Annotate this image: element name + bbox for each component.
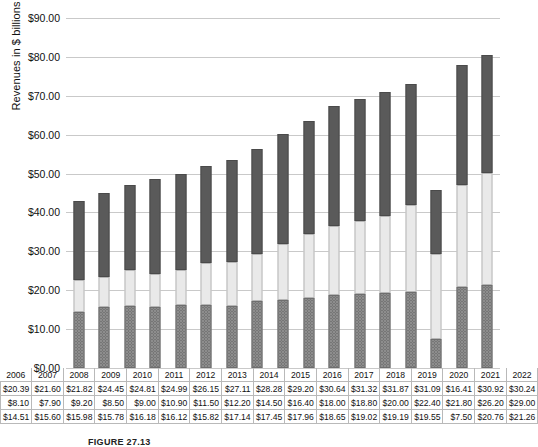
bar-segment-gate-receipts[interactable] [99,307,110,368]
bar-segment-sponsorship[interactable] [175,174,186,270]
y-axis-tick-label: $40.00 [28,206,60,218]
table-cell-value: $11.50 [190,396,222,410]
x-axis-tick-label: 2017 [348,368,380,382]
bar-segment-media[interactable] [456,185,467,287]
x-axis-tick-label: 2011 [158,368,190,382]
table-cell-value: $31.32 [348,382,380,396]
bar-column [398,18,424,368]
bar-segment-gate-receipts[interactable] [303,298,314,368]
table-cell-value: $30.24 [506,382,538,396]
bar-segment-sponsorship[interactable] [354,99,365,221]
table-cell-value: $12.20 [221,396,253,410]
stacked-bar[interactable] [482,55,493,368]
table-cell-value: $15.98 [63,410,95,424]
bar-segment-gate-receipts[interactable] [329,295,340,368]
stacked-bar[interactable] [329,106,340,368]
bar-segment-gate-receipts[interactable] [175,305,186,368]
table-cell-value: $15.82 [190,410,222,424]
stacked-bar[interactable] [226,160,237,368]
table-cell-value: $31.87 [380,382,412,396]
bar-segment-gate-receipts[interactable] [380,293,391,368]
bar-segment-sponsorship[interactable] [329,106,340,225]
bar-segment-sponsorship[interactable] [303,121,314,235]
bar-segment-sponsorship[interactable] [73,201,84,280]
bar-segment-media[interactable] [226,262,237,307]
figure-caption: FIGURE 27.13 [88,437,151,447]
stacked-bar[interactable] [405,84,416,368]
stacked-bar[interactable] [73,201,84,368]
x-axis-tick-label: 2010 [127,368,159,382]
bar-segment-media[interactable] [482,173,493,286]
stacked-bar[interactable] [201,166,212,368]
bar-segment-gate-receipts[interactable] [456,287,467,368]
bar-segment-media[interactable] [405,205,416,292]
table-cell-value: $16.41 [443,382,475,396]
bar-segment-sponsorship[interactable] [201,166,212,263]
bar-segment-media[interactable] [278,244,289,300]
bar-segment-sponsorship[interactable] [226,160,237,262]
y-axis-tick-label: $50.00 [28,168,60,180]
bar-segment-sponsorship[interactable] [482,55,493,173]
stacked-bar[interactable] [278,134,289,368]
bar-column [66,18,92,368]
stacked-bar[interactable] [431,190,442,368]
table-cell-value: $7.90 [32,396,64,410]
bar-segment-sponsorship[interactable] [431,190,442,254]
bar-segment-media[interactable] [124,270,135,306]
table-cell-value: $24.45 [95,382,127,396]
stacked-bar[interactable] [175,174,186,368]
bar-segment-gate-receipts[interactable] [252,301,263,368]
bar-segment-sponsorship[interactable] [456,65,467,185]
table-cell-value: $26.20 [475,396,507,410]
bar-segment-gate-receipts[interactable] [226,306,237,368]
table-cell-value: $20.00 [380,396,412,410]
bar-segment-sponsorship[interactable] [124,185,135,270]
stacked-bar[interactable] [456,65,467,368]
stacked-bar[interactable] [124,185,135,368]
bar-segment-media[interactable] [201,263,212,305]
table-cell-value: $20.39 [1,382,32,396]
stacked-bar[interactable] [380,92,391,368]
stacked-bar[interactable] [354,99,365,368]
bar-segment-gate-receipts[interactable] [431,339,442,368]
bar-segment-sponsorship[interactable] [405,84,416,205]
bar-segment-sponsorship[interactable] [278,134,289,244]
bar-segment-media[interactable] [175,270,186,305]
bar-segment-sponsorship[interactable] [380,92,391,216]
bar-segment-gate-receipts[interactable] [405,292,416,368]
x-axis-tick-label: 2021 [475,368,507,382]
stacked-bar[interactable] [99,193,110,368]
stacked-bar[interactable] [252,148,263,368]
table-cell-value: $29.20 [285,382,317,396]
bar-segment-media[interactable] [252,254,263,301]
bar-segment-gate-receipts[interactable] [482,285,493,368]
x-axis-tick-label: 2006 [1,368,32,382]
bar-segment-media[interactable] [73,280,84,311]
bar-segment-media[interactable] [354,221,365,294]
bar-column [347,18,373,368]
bar-segment-media[interactable] [329,226,340,296]
table-cell-value: $17.45 [253,410,285,424]
table-cell-value: $19.55 [411,410,443,424]
bar-segment-media[interactable] [303,234,314,298]
bar-segment-gate-receipts[interactable] [201,305,212,368]
bar-segment-sponsorship[interactable] [150,179,161,274]
stacked-bar[interactable] [303,121,314,368]
data-table-header: 2006200720082009201020112012201320142015… [1,368,538,382]
bar-segment-sponsorship[interactable] [99,193,110,277]
bar-segment-gate-receipts[interactable] [150,307,161,368]
x-axis-tick-label: 2012 [190,368,222,382]
bar-segment-media[interactable] [380,216,391,294]
bar-segment-media[interactable] [99,277,110,308]
bar-segment-gate-receipts[interactable] [124,306,135,368]
stacked-bar[interactable] [150,179,161,369]
bar-segment-gate-receipts[interactable] [354,294,365,368]
bar-segment-gate-receipts[interactable] [278,300,289,368]
bar-segment-media[interactable] [150,274,161,307]
bar-segment-gate-receipts[interactable] [73,312,84,368]
table-cell-value: $7.50 [443,410,475,424]
bar-segment-sponsorship[interactable] [252,149,263,254]
table-cell-value: $27.11 [221,382,253,396]
bar-segment-media[interactable] [431,254,442,339]
table-cell-value: $14.51 [1,410,32,424]
